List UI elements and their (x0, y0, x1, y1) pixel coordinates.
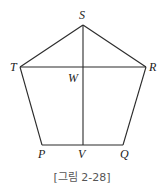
edge-tp (20, 67, 42, 145)
label-t: T (10, 60, 18, 74)
pentagon-diagram: S T R W P V Q [그림 2-28] (0, 0, 164, 189)
figure-caption: [그림 2-28] (53, 171, 110, 184)
edge-st (20, 25, 83, 67)
label-p: P (37, 147, 46, 161)
edge-sr (83, 25, 146, 67)
label-v: V (78, 147, 87, 161)
label-s: S (79, 8, 85, 22)
label-r: R (148, 60, 157, 74)
label-q: Q (120, 147, 129, 161)
label-w: W (68, 71, 79, 85)
edge-rq (123, 67, 146, 145)
